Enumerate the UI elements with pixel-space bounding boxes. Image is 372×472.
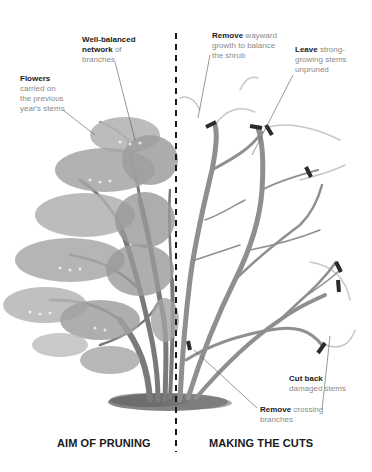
annotation-text: the previous [20,94,64,103]
annotation-text: strong- [318,45,345,54]
annotation-text: growth to balance [212,41,275,50]
annotation-cut-back: Cut back damaged stems [289,374,346,394]
annotation-bold: Remove [212,31,243,40]
annotation-text: branches [82,55,115,64]
annotation-text: branches [260,415,293,424]
annotation-remove-wayward: Remove wayward growth to balance the shr… [212,31,277,61]
pruning-diagram: Well-balanced network of branches Flower… [0,0,372,472]
annotation-text: carried on [20,84,56,93]
annotation-text: damaged stems [289,384,346,393]
annotation-bold: network [82,45,113,54]
heading-aim-of-pruning: AIM OF PRUNING [57,437,151,449]
annotation-bold: Well-balanced [82,35,136,44]
annotation-bold: Remove [260,405,291,414]
annotation-bold: Leave [295,45,318,54]
annotation-text: year's stems [20,104,65,113]
annotation-text: crossing [291,405,323,414]
annotation-text: of [113,45,122,54]
annotation-remove-crossing: Remove crossing branches [260,405,323,425]
annotation-text: unpruned [295,65,329,74]
heading-making-the-cuts: MAKING THE CUTS [209,437,313,449]
annotation-balanced-network: Well-balanced network of branches [82,35,136,65]
annotation-text: wayward [243,31,277,40]
right-shrub-faint-growth [180,77,355,347]
annotation-text: the shrub [212,51,245,60]
annotation-text: growing stems [295,55,347,64]
annotation-flowers: Flowers carried on the previous year's s… [20,74,65,114]
annotation-bold: Cut back [289,374,323,383]
annotation-bold: Flowers [20,74,50,83]
annotation-leave-strong: Leave strong- growing stems unpruned [295,45,347,75]
